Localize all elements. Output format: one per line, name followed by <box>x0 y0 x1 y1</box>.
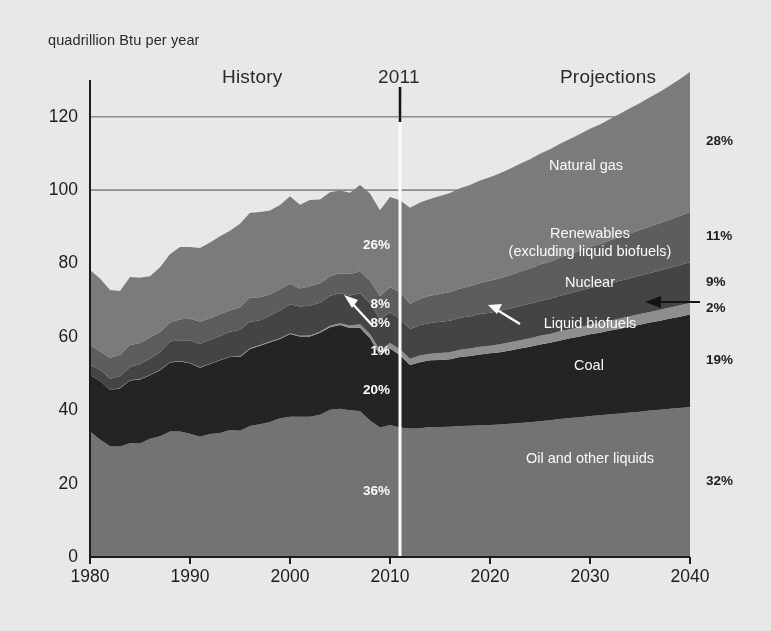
y-tick-0: 0 <box>26 546 78 567</box>
series-label-renewables-line1: Renewables <box>500 225 680 241</box>
series-label-coal: Coal <box>524 357 654 373</box>
share-2011-nuclear: 8% <box>334 315 390 330</box>
y-tick-120: 120 <box>26 106 78 127</box>
x-tick-2020: 2020 <box>455 566 525 587</box>
share-2040-natural-gas: 28% <box>706 133 756 148</box>
series-label-oil: Oil and other liquids <box>470 450 710 466</box>
share-2011-renewables-excluding-liquid-biofuels: 8% <box>334 296 390 311</box>
y-tick-20: 20 <box>26 473 78 494</box>
share-2040-coal: 19% <box>706 352 756 367</box>
series-label-renewables-line2: (excluding liquid biofuels) <box>450 243 730 259</box>
x-tick-2040: 2040 <box>655 566 725 587</box>
y-tick-80: 80 <box>26 252 78 273</box>
share-2011-coal: 20% <box>334 382 390 397</box>
series-label-nuclear: Nuclear <box>510 274 670 290</box>
series-label-liquid-biofuels: Liquid biofuels <box>500 315 680 331</box>
y-tick-40: 40 <box>26 399 78 420</box>
y-tick-60: 60 <box>26 326 78 347</box>
share-2011-liquid-biofuels: 1% <box>334 343 390 358</box>
share-2040-nuclear: 9% <box>706 274 756 289</box>
share-2040-renewables-excluding-liquid-biofuels: 11% <box>706 228 756 243</box>
series-label-natural-gas: Natural gas <box>506 157 666 173</box>
x-tick-1980: 1980 <box>55 566 125 587</box>
chart-figure: quadrillion Btu per year History 2011 Pr… <box>0 0 771 631</box>
share-2040-oil-and-other-liquids: 32% <box>706 473 756 488</box>
y-tick-100: 100 <box>26 179 78 200</box>
x-tick-2010: 2010 <box>355 566 425 587</box>
share-2011-natural-gas: 26% <box>334 237 390 252</box>
x-tick-2030: 2030 <box>555 566 625 587</box>
share-2011-oil-and-other-liquids: 36% <box>334 483 390 498</box>
share-2040-liquid-biofuels: 2% <box>706 300 756 315</box>
x-tick-1990: 1990 <box>155 566 225 587</box>
x-tick-2000: 2000 <box>255 566 325 587</box>
